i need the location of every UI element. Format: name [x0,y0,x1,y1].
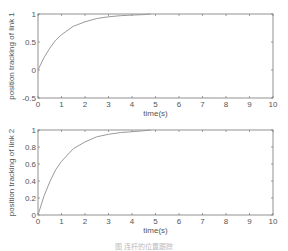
x-tick-label: 10 [269,217,278,226]
x-tick-label: 4 [130,217,135,226]
y-tick-label: 1 [32,126,37,135]
y-axis-label: position tracking of link 1 [7,12,16,100]
series-line [38,130,151,215]
y-tick-label: 0.6 [25,160,37,169]
subplot-2: 01234567891000.20.40.60.81time(s)positio… [7,126,278,235]
x-tick-label: 1 [59,217,64,226]
x-tick-label: 9 [247,100,252,109]
x-tick-label: 4 [130,100,135,109]
x-tick-label: 6 [177,100,182,109]
subplot-1: 012345678910-0.500.51time(s)position tra… [7,10,278,118]
y-tick-label: 1 [32,10,37,19]
y-tick-label: 0 [32,66,37,75]
x-tick-label: 10 [269,100,278,109]
figure-caption: 图 连杆的位置跟踪 [0,241,288,251]
x-tick-label: 8 [224,217,229,226]
y-tick-label: 0 [32,211,37,220]
x-tick-label: 0 [36,100,41,109]
y-tick-label: 0.2 [25,194,37,203]
x-tick-label: 3 [106,100,111,109]
x-tick-label: 3 [106,217,111,226]
y-tick-label: 0.4 [25,177,37,186]
y-tick-label: 0.5 [25,38,37,47]
y-tick-label: 0.8 [25,143,37,152]
series-line [38,14,151,70]
x-tick-label: 8 [224,100,229,109]
x-tick-label: 2 [83,100,88,109]
x-tick-label: 9 [247,217,252,226]
x-tick-label: 2 [83,217,88,226]
x-tick-label: 5 [153,100,158,109]
x-axis-label: time(s) [143,226,168,235]
x-tick-label: 7 [200,217,205,226]
y-axis-label: position tracking of link 2 [7,128,16,216]
x-axis-label: time(s) [143,109,168,118]
x-tick-label: 5 [153,217,158,226]
x-tick-label: 0 [36,217,41,226]
x-tick-label: 7 [200,100,205,109]
plot-frame [38,130,273,215]
x-tick-label: 1 [59,100,64,109]
x-tick-label: 6 [177,217,182,226]
y-tick-label: -0.5 [22,94,36,103]
